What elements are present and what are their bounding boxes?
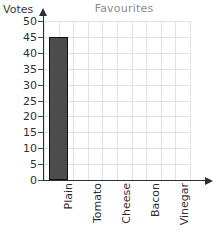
bar xyxy=(49,37,68,180)
x-tick-label: Plain xyxy=(63,183,74,242)
y-tick-mark xyxy=(38,180,43,181)
y-axis-line xyxy=(43,14,44,181)
y-tick-mark xyxy=(38,148,43,149)
y-tick-mark xyxy=(38,116,43,117)
y-tick-label: 50 xyxy=(3,16,37,27)
y-tick-label: 40 xyxy=(3,48,37,59)
gridline-vertical xyxy=(190,21,191,180)
y-tick-label: 5 xyxy=(3,159,37,170)
y-tick-label: 20 xyxy=(3,111,37,122)
y-tick-label: 30 xyxy=(3,80,37,91)
y-tick-label: 0 xyxy=(3,175,37,186)
x-tick-label: Bacon xyxy=(150,183,161,242)
gridline-vertical xyxy=(88,21,89,180)
x-axis-line xyxy=(43,180,207,181)
y-tick-mark xyxy=(38,21,43,22)
gridline-vertical xyxy=(73,21,74,180)
y-tick-mark xyxy=(38,101,43,102)
gridline-vertical xyxy=(146,21,147,180)
y-axis-tick-labels: 05101520253035404550 xyxy=(0,0,37,242)
y-tick-label: 10 xyxy=(3,143,37,154)
x-axis-tick-labels: PlainTomatoCheeseBaconVinegar xyxy=(44,183,214,242)
x-tick-label: Tomato xyxy=(92,183,103,242)
x-tick-label: Cheese xyxy=(121,183,132,242)
gridline-vertical xyxy=(175,21,176,180)
gridline-vertical xyxy=(132,21,133,180)
gridline-vertical xyxy=(117,21,118,180)
y-tick-label: 25 xyxy=(3,96,37,107)
y-tick-mark xyxy=(38,37,43,38)
y-axis-arrow-icon xyxy=(39,8,47,16)
x-tick-label: Vinegar xyxy=(179,183,190,242)
y-tick-label: 45 xyxy=(3,32,37,43)
gridline-vertical xyxy=(161,21,162,180)
y-tick-mark xyxy=(38,53,43,54)
gridline-vertical xyxy=(102,21,103,180)
y-tick-mark xyxy=(38,132,43,133)
y-tick-mark xyxy=(38,164,43,165)
y-tick-mark xyxy=(38,85,43,86)
y-tick-mark xyxy=(38,69,43,70)
bar-chart: Favourites Votes 05101520253035404550 Pl… xyxy=(0,0,222,242)
y-tick-label: 15 xyxy=(3,127,37,138)
y-tick-label: 35 xyxy=(3,64,37,75)
